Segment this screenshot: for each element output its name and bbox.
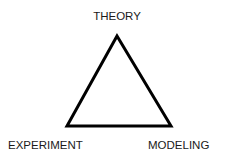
- label-theory: THEORY: [0, 11, 230, 23]
- diagram-canvas: THEORY EXPERIMENT MODELING: [0, 0, 230, 158]
- triangle-shape: [0, 0, 230, 158]
- label-experiment: EXPERIMENT: [8, 140, 83, 152]
- label-modeling: MODELING: [148, 140, 209, 152]
